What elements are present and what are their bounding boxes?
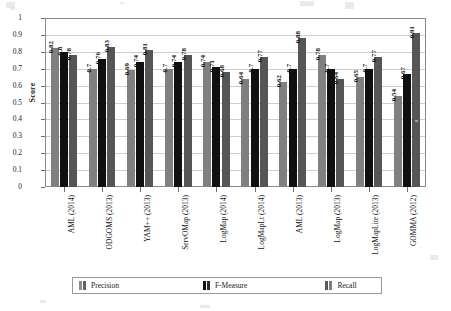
y-tick-label: 0.6	[0, 82, 22, 90]
y-tick-label: 0	[0, 183, 22, 191]
bar-value-label: 0.67	[400, 67, 407, 79]
x-tick-mark	[216, 187, 217, 192]
bar-fmeasure: 0.7	[251, 69, 259, 187]
bar-fmeasure: 0.74	[174, 62, 182, 187]
x-axis-label: YAM++ (2013)	[144, 195, 152, 242]
bar-value-label: 0.8	[57, 46, 64, 55]
x-tick-mark	[140, 187, 141, 192]
x-axis-label: GOMMA (2012)	[410, 195, 418, 246]
bar-value-label: 0.91	[409, 26, 416, 38]
bar-value-label: 0.7	[362, 63, 369, 72]
bar-precision: 0.62	[279, 82, 287, 187]
bar-value-label: 0.88	[295, 31, 302, 43]
bar-value-label: 0.7	[162, 63, 169, 72]
bar-fmeasure: 0.71	[212, 67, 220, 187]
bar-group: 0.820.80.78	[51, 18, 77, 187]
legend-item-precision: Precision	[79, 281, 119, 290]
bar-recall: 0.64	[336, 79, 344, 187]
bar-recall: 0.91	[412, 33, 420, 187]
x-tick-mark	[331, 187, 332, 192]
bar-fmeasure: 0.7	[327, 69, 335, 187]
bar-recall: 0.88	[298, 38, 306, 187]
bar-recall: 0.81	[145, 50, 153, 187]
x-axis-label: AML (2014)	[68, 195, 76, 233]
bar-value-label: 0.74	[200, 55, 207, 67]
bar-group: 0.780.70.64	[318, 18, 344, 187]
y-tick-label: 0.4	[0, 115, 22, 123]
y-axis-title: Score	[28, 63, 37, 123]
bar-value-label: 0.76	[95, 51, 102, 63]
bar-value-label: 0.7	[86, 63, 93, 72]
x-axis-labels: AML (2014)ODGOMS (2013)YAM++ (2013)ServO…	[45, 187, 426, 267]
x-axis-label: AML (2013)	[296, 195, 304, 233]
bar-precision: 0.7	[89, 69, 97, 187]
bar-fmeasure: 0.76	[98, 59, 106, 187]
legend-swatch-icon	[325, 281, 334, 290]
y-tick-label: 0.8	[0, 48, 22, 56]
bar-value-label: 0.78	[66, 48, 73, 60]
bar-precision: 0.69	[127, 70, 135, 187]
bar-value-label: 0.65	[353, 70, 360, 82]
x-tick-mark	[64, 187, 65, 192]
x-axis-label: LogMapLt (2014)	[258, 195, 266, 249]
bar-value-label: 0.81	[142, 43, 149, 55]
bar-group: 0.540.670.91	[394, 18, 420, 187]
x-tick-mark	[407, 187, 408, 192]
bar-recall: 0.68	[222, 72, 230, 187]
bar-fmeasure: 0.8	[60, 52, 68, 187]
bar-group: 0.70.740.78	[165, 18, 191, 187]
bar-value-label: 0.83	[104, 40, 111, 52]
bar-precision: 0.7	[165, 69, 173, 187]
bar-group: 0.640.70.77	[241, 18, 267, 187]
bar-group: 0.690.740.81	[127, 18, 153, 187]
bar-recall: 0.83	[107, 47, 115, 187]
bar-fmeasure: 0.67	[403, 74, 411, 187]
chart-legend: Precision F-Measure Recall	[72, 277, 382, 294]
y-tick-label: 0.1	[0, 166, 22, 174]
bar-precision: 0.64	[241, 79, 249, 187]
bar-fmeasure: 0.7	[365, 69, 373, 187]
x-tick-mark	[178, 187, 179, 192]
bar-value-label: 0.7	[324, 63, 331, 72]
bar-value-label: 0.54	[391, 89, 398, 101]
bar-recall: 0.77	[374, 57, 382, 187]
bar-value-label: 0.62	[276, 75, 283, 87]
legend-swatch-icon	[203, 281, 212, 290]
bar-recall: 0.77	[260, 57, 268, 187]
x-axis-label: LogMap (2013)	[334, 195, 342, 243]
legend-label: F-Measure	[215, 281, 248, 290]
bar-precision: 0.82	[51, 48, 59, 187]
legend-item-fmeasure: F-Measure	[203, 281, 248, 290]
bar-precision: 0.54	[394, 96, 402, 187]
y-tick-label: 0.3	[0, 132, 22, 140]
bar-recall: 0.78	[69, 55, 77, 187]
legend-swatch-icon	[79, 281, 88, 290]
bar-value-label: 0.82	[48, 41, 55, 53]
bar-value-label: 0.77	[257, 50, 264, 62]
legend-label: Precision	[91, 281, 119, 290]
bar-value-label: 0.78	[181, 48, 188, 60]
x-axis-label: ServOMap (2013)	[182, 195, 190, 250]
bar-precision: 0.78	[318, 55, 326, 187]
bars-layer: 0.820.80.780.70.760.830.690.740.810.70.7…	[45, 18, 426, 187]
y-tick-label: 0.2	[0, 149, 22, 157]
bar-chart-figure: Score 10.90.80.70.60.50.40.30.20.10 0.82…	[0, 0, 451, 311]
y-tick-label: 0.5	[0, 99, 22, 107]
bar-precision: 0.74	[203, 62, 211, 187]
bar-group: 0.620.70.88	[279, 18, 305, 187]
x-tick-mark	[102, 187, 103, 192]
legend-item-recall: Recall	[325, 281, 356, 290]
bar-fmeasure: 0.7	[289, 69, 297, 187]
x-axis-label: LogMap (2014)	[220, 195, 228, 243]
bar-value-label: 0.71	[209, 60, 216, 72]
bar-value-label: 0.68	[219, 65, 226, 77]
bar-fmeasure: 0.74	[136, 62, 144, 187]
bar-value-label: 0.77	[371, 50, 378, 62]
bar-value-label: 0.7	[286, 63, 293, 72]
y-tick-label: 0.9	[0, 31, 22, 39]
y-tick-label: 1	[0, 14, 22, 22]
x-tick-mark	[293, 187, 294, 192]
bar-value-label: 0.74	[133, 55, 140, 67]
bar-value-label: 0.64	[333, 72, 340, 84]
bar-value-label: 0.69	[124, 63, 131, 75]
